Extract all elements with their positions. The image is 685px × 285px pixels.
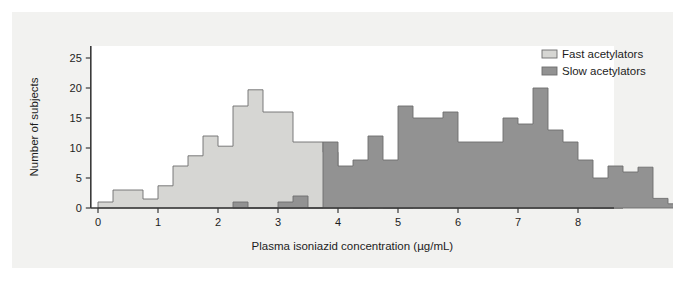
legend-label-fast-acetylators: Fast acetylators xyxy=(562,48,643,60)
y-tick-label-20: 20 xyxy=(70,82,82,94)
histogram-svg: 0510152025 012345678 Number of subjects … xyxy=(12,12,673,268)
x-tick-label-0: 0 xyxy=(95,216,101,228)
legend-swatch-slow-acetylators xyxy=(542,67,557,75)
figure-panel: 0510152025 012345678 Number of subjects … xyxy=(12,12,673,268)
x-tick-label-7: 7 xyxy=(515,216,521,228)
legend-label-slow-acetylators: Slow acetylators xyxy=(562,65,646,77)
chart-plot-area: 0510152025 012345678 Number of subjects … xyxy=(12,12,673,268)
x-tick-label-6: 6 xyxy=(455,216,461,228)
y-tick-label-0: 0 xyxy=(76,202,82,214)
y-axis-title: Number of subjects xyxy=(28,77,40,176)
x-axis-title: Plasma isoniazid concentration (µg/mL) xyxy=(252,240,454,252)
y-tick-label-5: 5 xyxy=(76,172,82,184)
y-tick-label-10: 10 xyxy=(70,142,82,154)
legend-swatch-fast-acetylators xyxy=(542,50,557,58)
x-tick-label-8: 8 xyxy=(575,216,581,228)
x-tick-label-1: 1 xyxy=(155,216,161,228)
x-tick-label-4: 4 xyxy=(335,216,341,228)
x-tick-label-2: 2 xyxy=(215,216,221,228)
x-tick-label-3: 3 xyxy=(275,216,281,228)
y-tick-label-25: 25 xyxy=(70,52,82,64)
y-tick-label-15: 15 xyxy=(70,112,82,124)
x-tick-label-5: 5 xyxy=(395,216,401,228)
